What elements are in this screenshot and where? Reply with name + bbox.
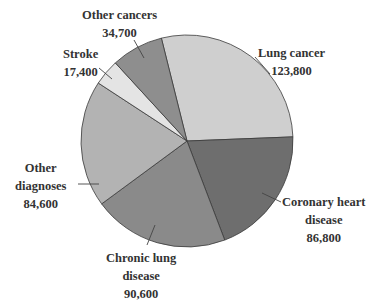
label-name: Coronary heart xyxy=(282,193,365,211)
label-value: 17,400 xyxy=(63,63,98,81)
label-value: 90,600 xyxy=(106,285,176,303)
label-value: 84,600 xyxy=(15,195,66,213)
label-name: Stroke xyxy=(63,45,98,63)
label-lung-cancer: Lung cancer 123,800 xyxy=(258,44,325,80)
label-other-diagnoses: Other diagnoses 84,600 xyxy=(15,159,66,213)
label-name: Other xyxy=(15,159,66,177)
label-name: Lung cancer xyxy=(258,44,325,62)
label-value: 34,700 xyxy=(82,24,157,42)
label-name: diagnoses xyxy=(15,177,66,195)
label-other-cancers: Other cancers 34,700 xyxy=(82,6,157,42)
label-name: Chronic lung xyxy=(106,249,176,267)
label-value: 123,800 xyxy=(258,62,325,80)
label-name: disease xyxy=(282,211,365,229)
label-stroke: Stroke 17,400 xyxy=(63,45,98,81)
label-chronic-lung-disease: Chronic lung disease 90,600 xyxy=(106,249,176,303)
label-name: disease xyxy=(106,267,176,285)
label-name: Other cancers xyxy=(82,6,157,24)
label-value: 86,800 xyxy=(282,229,365,247)
label-coronary-heart-disease: Coronary heart disease 86,800 xyxy=(282,193,365,247)
